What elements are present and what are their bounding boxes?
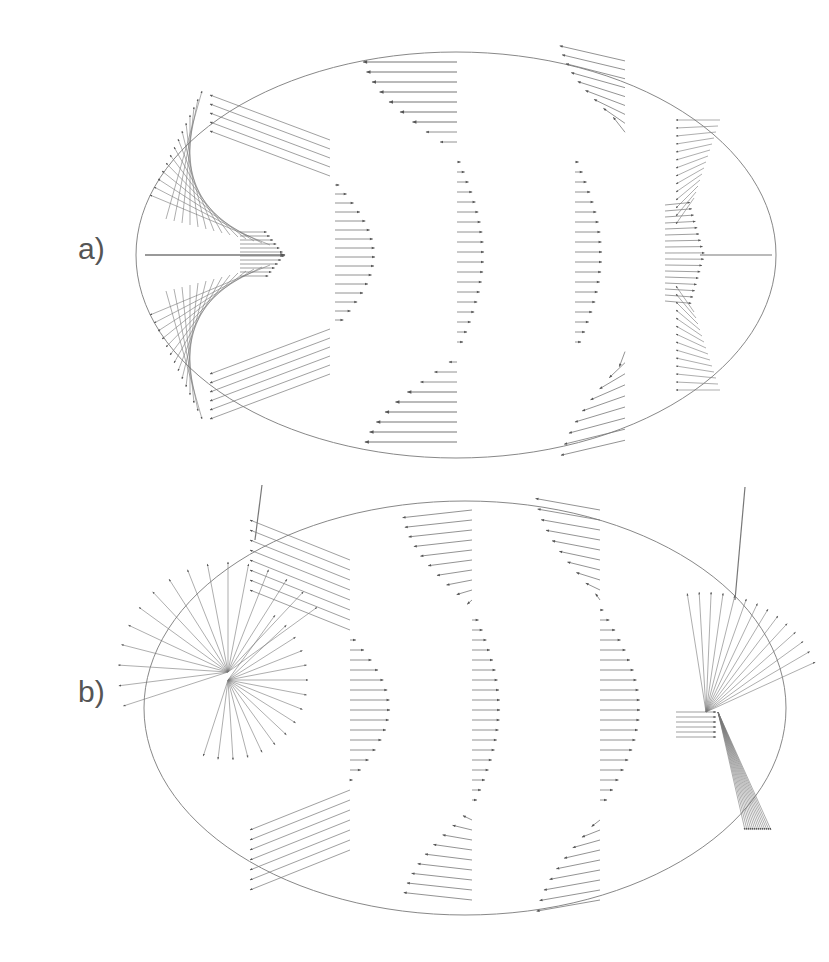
vector-field-figure: [0, 0, 829, 962]
panel-a-vector-field: [136, 46, 776, 458]
ellipse-boundary: [144, 501, 786, 915]
panel-b-vector-field: [118, 485, 815, 915]
